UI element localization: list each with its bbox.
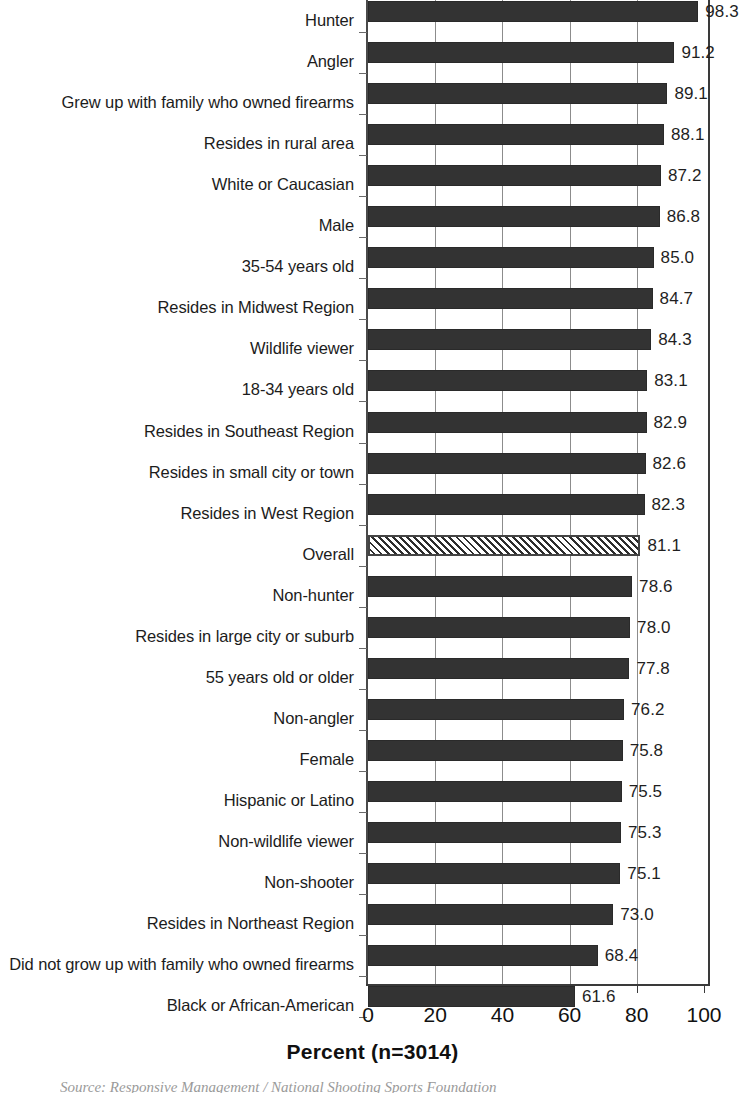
bar-row: 91.2	[368, 42, 708, 63]
category-label: Non-wildlife viewer	[0, 831, 361, 852]
bar-value-label: 81.1	[647, 535, 681, 556]
bar-row: 77.8	[368, 658, 708, 679]
y-axis-minor-tick	[359, 730, 367, 731]
bar-row: 88.1	[368, 124, 708, 145]
bar	[368, 329, 651, 350]
category-label: Grew up with family who owned firearms	[0, 92, 361, 113]
category-label: Resides in small city or town	[0, 462, 361, 483]
category-label: Resides in Northeast Region	[0, 913, 361, 934]
bar-row: 82.3	[368, 494, 708, 515]
bar-row: 83.1	[368, 370, 708, 391]
bar-row: 76.2	[368, 699, 708, 720]
category-label: Hunter	[0, 10, 361, 31]
y-axis-minor-tick	[359, 32, 367, 33]
bar-row: 84.3	[368, 329, 708, 350]
bar-row: 82.9	[368, 412, 708, 433]
bar-row: 98.3	[368, 1, 708, 22]
bar-row: 75.3	[368, 822, 708, 843]
y-axis-minor-tick	[359, 278, 367, 279]
bar	[368, 42, 674, 63]
bar	[368, 863, 620, 884]
bar	[368, 288, 653, 309]
category-label: Resides in Midwest Region	[0, 297, 361, 318]
bar-value-label: 76.2	[631, 699, 665, 720]
bar-row: 86.8	[368, 206, 708, 227]
bar-row: 81.1	[368, 535, 708, 556]
bar	[368, 658, 629, 679]
y-axis-minor-tick	[359, 114, 367, 115]
bar-value-label: 83.1	[654, 370, 688, 391]
category-label: Non-angler	[0, 708, 361, 729]
bar-value-label: 75.3	[628, 822, 662, 843]
bar-value-label: 75.1	[627, 863, 661, 884]
category-label: Male	[0, 215, 361, 236]
bar-value-label: 82.6	[653, 453, 687, 474]
bar	[368, 165, 661, 186]
bar	[368, 206, 660, 227]
bar	[368, 822, 621, 843]
plot-area: 98.391.289.188.187.286.885.084.784.383.1…	[368, 0, 704, 993]
category-label: Resides in large city or suburb	[0, 626, 361, 647]
bar-row: 87.2	[368, 165, 708, 186]
bar	[368, 699, 624, 720]
bar-row: 68.4	[368, 945, 708, 966]
bar	[368, 576, 632, 597]
bar	[368, 904, 613, 925]
bar-value-label: 78.6	[639, 576, 673, 597]
y-axis-minor-tick	[359, 484, 367, 485]
y-axis-minor-tick	[359, 443, 367, 444]
x-tick-label: 0	[338, 1003, 398, 1027]
y-axis-minor-tick	[359, 853, 367, 854]
y-axis-minor-tick	[359, 935, 367, 936]
bar-row: 73.0	[368, 904, 708, 925]
bar-value-label: 75.5	[629, 781, 663, 802]
y-axis-minor-tick	[359, 607, 367, 608]
bar-row: 78.6	[368, 576, 708, 597]
category-label: Hispanic or Latino	[0, 790, 361, 811]
category-label-column: HunterAnglerGrew up with family who owne…	[0, 0, 361, 993]
bar-value-label: 77.8	[636, 658, 670, 679]
bar-value-label: 73.0	[620, 904, 654, 925]
bar-value-label: 75.8	[630, 740, 664, 761]
y-axis-minor-tick	[359, 894, 367, 895]
y-axis-minor-tick	[359, 401, 367, 402]
bar-value-label: 85.0	[661, 247, 695, 268]
y-axis-minor-tick	[359, 196, 367, 197]
bar-row: 84.7	[368, 288, 708, 309]
y-axis-minor-tick	[359, 73, 367, 74]
bar	[368, 617, 630, 638]
y-axis-minor-tick	[359, 771, 367, 772]
y-axis-minor-tick	[359, 237, 367, 238]
bar-value-label: 82.9	[654, 412, 688, 433]
bar-value-label: 98.3	[705, 1, 739, 22]
bar-row: 85.0	[368, 247, 708, 268]
bar-value-label: 87.2	[668, 165, 702, 186]
bar	[368, 83, 667, 104]
category-label: White or Caucasian	[0, 174, 361, 195]
category-label: Angler	[0, 51, 361, 72]
category-label: 35-54 years old	[0, 256, 361, 277]
bar-value-label: 84.7	[660, 288, 694, 309]
y-axis-minor-tick	[359, 319, 367, 320]
category-label: Black or African-American	[0, 995, 361, 1016]
bar	[368, 124, 664, 145]
category-label: Did not grow up with family who owned fi…	[0, 954, 361, 975]
y-axis-minor-tick	[359, 360, 367, 361]
bar-row: 75.8	[368, 740, 708, 761]
bar-value-label: 89.1	[674, 83, 708, 104]
y-axis-minor-tick	[359, 648, 367, 649]
category-label: 55 years old or older	[0, 667, 361, 688]
category-label: Resides in West Region	[0, 503, 361, 524]
category-label: Overall	[0, 544, 361, 565]
category-label: Resides in rural area	[0, 133, 361, 154]
x-tick-label: 60	[540, 1003, 600, 1027]
x-tick-label: 40	[472, 1003, 532, 1027]
category-label: Non-hunter	[0, 585, 361, 606]
bar-overall-highlight	[368, 535, 640, 556]
y-axis-minor-tick	[359, 689, 367, 690]
bar-chart-figure: HunterAnglerGrew up with family who owne…	[0, 0, 745, 1093]
bar-row: 89.1	[368, 83, 708, 104]
bar	[368, 247, 654, 268]
y-axis-minor-tick	[359, 812, 367, 813]
y-axis-minor-tick	[359, 566, 367, 567]
